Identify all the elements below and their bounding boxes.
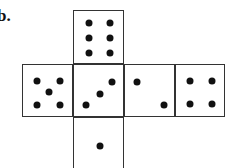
- die-face-center-right: [124, 64, 175, 117]
- pip: [209, 77, 216, 84]
- pip: [96, 143, 103, 150]
- pip: [106, 35, 113, 42]
- pip: [160, 101, 167, 108]
- die-face-center: [73, 64, 124, 117]
- die-face-left: [22, 64, 73, 117]
- option-label: b.: [0, 6, 11, 26]
- pip: [187, 77, 194, 84]
- die-face-top: [73, 10, 124, 64]
- pip: [83, 101, 90, 108]
- pip: [209, 101, 216, 108]
- pip: [33, 101, 40, 108]
- pip: [187, 101, 194, 108]
- pip: [108, 79, 115, 86]
- pip: [57, 101, 64, 108]
- pip: [134, 78, 141, 85]
- pip: [106, 19, 113, 26]
- pip: [33, 77, 40, 84]
- pip: [86, 50, 93, 57]
- pip: [86, 19, 93, 26]
- die-face-right: [175, 64, 225, 117]
- pip: [96, 91, 103, 98]
- pip: [86, 35, 93, 42]
- pip: [57, 77, 64, 84]
- die-face-bottom: [73, 117, 124, 168]
- pip: [45, 88, 52, 95]
- pip: [106, 50, 113, 57]
